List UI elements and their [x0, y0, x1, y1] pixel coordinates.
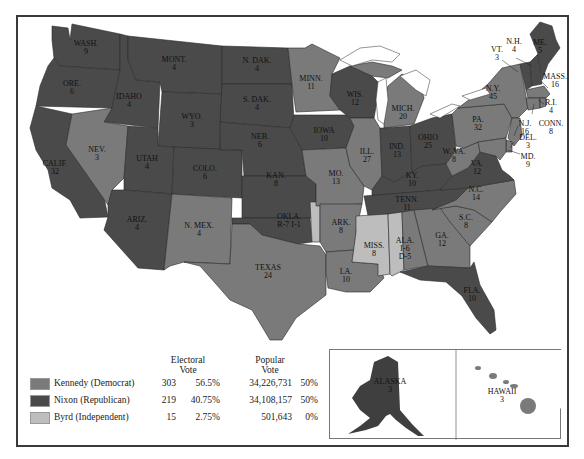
state-alaska: [348, 356, 424, 436]
popular-votes: 501,643: [230, 412, 292, 422]
popular-pct: 50%: [296, 378, 318, 388]
label-nh: N.H.4: [506, 37, 522, 54]
kennedy-swatch: [30, 378, 50, 390]
label-del: DEL.3: [519, 133, 537, 150]
popular-pct: 0%: [296, 412, 318, 422]
label-okla: OKLA.R-7 I-1: [277, 212, 301, 229]
label-hawaii: HAWAII3: [488, 387, 517, 404]
popular-votes: 34,108,157: [230, 395, 292, 405]
popular-pct: 50%: [296, 395, 318, 405]
electoral-votes: 303: [158, 378, 176, 388]
label-ri: R.I.4: [545, 98, 557, 115]
candidate-name: Nixon (Republican): [54, 395, 130, 405]
electoral-pct: 2.75%: [180, 412, 220, 422]
legend-row-byrd: Byrd (Independent) 15 2.75% 501,643 0%: [30, 411, 320, 425]
legend-row-nixon: Nixon (Republican) 219 40.75% 34,108,157…: [30, 394, 320, 408]
legend: Electoral Vote Popular Vote Kennedy (Dem…: [30, 355, 320, 435]
label-conn: CONN.8: [539, 119, 564, 136]
state-fla: [400, 262, 496, 334]
label-md: MD.9: [521, 152, 536, 169]
legend-header-electoral: Electoral Vote: [158, 355, 218, 375]
legend-row-kennedy: Kennedy (Democrat) 303 56.5% 34,226,731 …: [30, 377, 320, 391]
inset-alaska-hawaii: ALASKA3 HAWAII3: [329, 349, 561, 439]
legend-header-popular: Popular Vote: [240, 355, 300, 375]
electoral-pct: 56.5%: [180, 378, 220, 388]
state-okla-byrd-sliver: [310, 202, 320, 242]
electoral-votes: 15: [158, 412, 176, 422]
candidate-name: Byrd (Independent): [54, 412, 129, 422]
candidate-name: Kennedy (Democrat): [54, 378, 134, 388]
byrd-swatch: [30, 412, 50, 424]
nixon-swatch: [30, 395, 50, 407]
popular-votes: 34,226,731: [230, 378, 292, 388]
electoral-pct: 40.75%: [180, 395, 220, 405]
inset-map: ALASKA3 HAWAII3: [330, 350, 562, 440]
electoral-votes: 219: [158, 395, 176, 405]
label-vt: VT.3: [491, 45, 503, 62]
